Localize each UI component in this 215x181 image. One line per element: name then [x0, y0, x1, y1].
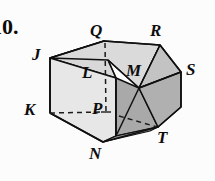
figure-page: 10. Q R J	[0, 0, 215, 181]
vertex-label-S: S	[186, 61, 195, 78]
vertex-label-R: R	[150, 22, 161, 39]
solid-figure-svg	[0, 0, 215, 181]
vertex-label-Q: Q	[90, 22, 102, 39]
vertex-label-P: P	[92, 100, 102, 117]
vertex-label-K: K	[24, 101, 35, 118]
vertex-label-T: T	[157, 129, 167, 146]
vertex-label-N: N	[89, 145, 101, 162]
vertex-label-L: L	[82, 64, 92, 81]
vertex-label-M: M	[126, 62, 141, 79]
vertex-label-J: J	[32, 46, 41, 63]
